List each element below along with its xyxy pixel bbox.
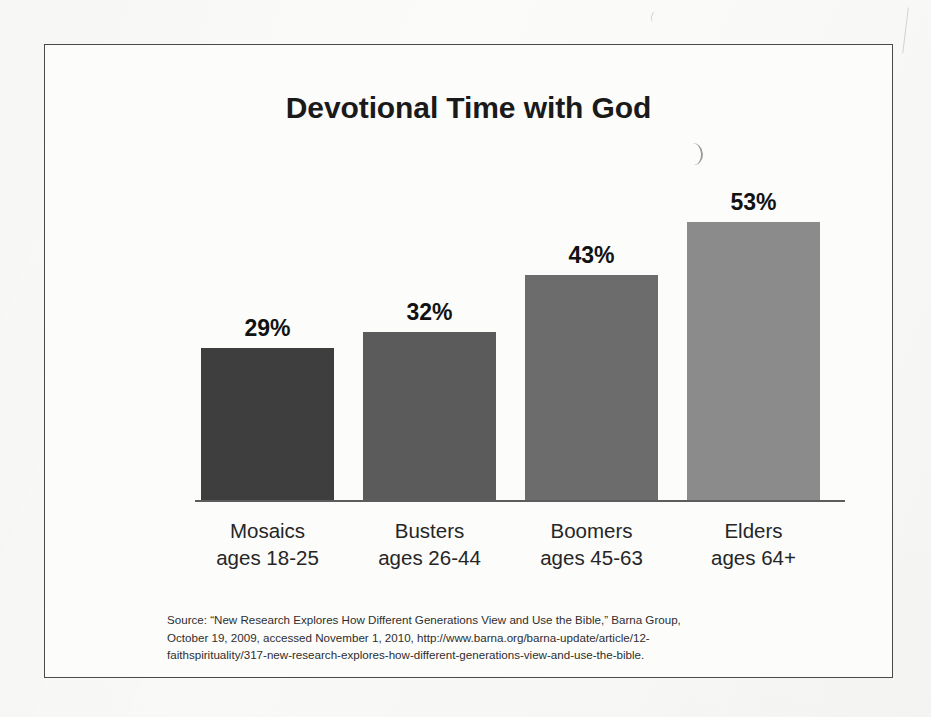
source-line-2: October 19, 2009, accessed November 1, 2… xyxy=(167,629,867,647)
source-citation: Source: “New Research Explores How Diffe… xyxy=(167,611,867,664)
category-label-elders: Eldersages 64+ xyxy=(672,517,836,572)
scan-artifact-right-icon xyxy=(902,8,917,55)
bar-value-label: 29% xyxy=(201,315,334,342)
bar-group: 32% xyxy=(363,332,496,501)
source-line-3: faithspirituality/317-new-research-explo… xyxy=(167,646,867,664)
chart-title: Devotional Time with God xyxy=(45,91,892,125)
category-age-range: ages 26-44 xyxy=(348,544,512,571)
scan-artifact-top-icon xyxy=(650,11,664,25)
bar-mosaics xyxy=(201,348,334,501)
bar-elders xyxy=(687,222,820,501)
plot-area: 29%32%43%53% xyxy=(195,185,845,501)
source-line-1: Source: “New Research Explores How Diffe… xyxy=(167,611,867,629)
bar-busters xyxy=(363,332,496,501)
x-axis-baseline xyxy=(195,500,845,502)
category-name: Elders xyxy=(672,517,836,544)
bar-boomers xyxy=(525,275,658,501)
bar-group: 53% xyxy=(687,222,820,501)
category-age-range: ages 64+ xyxy=(672,544,836,571)
bar-group: 29% xyxy=(201,348,334,501)
category-name: Mosaics xyxy=(186,517,350,544)
category-name: Busters xyxy=(348,517,512,544)
category-label-mosaics: Mosaicsages 18-25 xyxy=(186,517,350,572)
category-label-boomers: Boomersages 45-63 xyxy=(510,517,674,572)
category-age-range: ages 18-25 xyxy=(186,544,350,571)
bar-value-label: 43% xyxy=(525,242,658,269)
category-label-busters: Bustersages 26-44 xyxy=(348,517,512,572)
scanned-page: Devotional Time with God 29%32%43%53% So… xyxy=(0,0,931,717)
scan-artifact-curve-icon xyxy=(686,142,703,165)
bar-group: 43% xyxy=(525,275,658,501)
bar-value-label: 32% xyxy=(363,299,496,326)
bar-value-label: 53% xyxy=(687,189,820,216)
category-name: Boomers xyxy=(510,517,674,544)
category-age-range: ages 45-63 xyxy=(510,544,674,571)
chart-frame: Devotional Time with God 29%32%43%53% So… xyxy=(44,44,893,678)
